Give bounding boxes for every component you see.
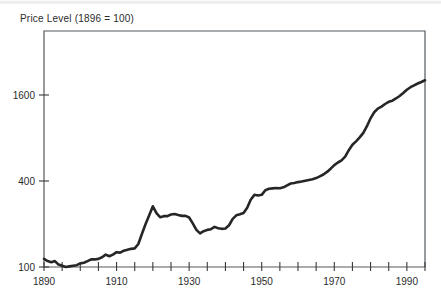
y-tick-label: 400 xyxy=(18,176,35,187)
y-axis-tick-labels: 1004001600 xyxy=(13,90,36,273)
x-tick-label: 1990 xyxy=(396,276,419,287)
x-axis-tick-labels: 189019101930195019701990 xyxy=(33,276,419,287)
x-tick-label: 1890 xyxy=(33,276,56,287)
axis-frame xyxy=(44,31,425,267)
y-tick-label: 1600 xyxy=(13,90,36,101)
x-tick-label: 1930 xyxy=(178,276,201,287)
x-tick-label: 1970 xyxy=(323,276,346,287)
price-level-series-line xyxy=(44,80,425,267)
x-tick-label: 1950 xyxy=(251,276,274,287)
x-tick-label: 1910 xyxy=(105,276,128,287)
price-level-line-chart: 1004001600 189019101930195019701990 xyxy=(0,0,441,302)
data-series-group xyxy=(44,80,425,267)
figure-container: Price Level (1896 = 100) 1004001600 1890… xyxy=(0,0,441,302)
axes-group: 1004001600 189019101930195019701990 xyxy=(13,31,425,287)
y-tick-label: 100 xyxy=(18,262,35,273)
